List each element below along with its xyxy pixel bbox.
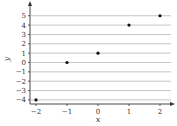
y-tick-label: −1 (16, 68, 26, 76)
data-points (34, 14, 161, 101)
y-tick-label: 1 (22, 50, 26, 58)
y-tick-label: 0 (22, 59, 26, 67)
y-axis-label: y (2, 56, 11, 62)
y-tick-label: 5 (22, 12, 26, 20)
gridlines (31, 16, 171, 100)
y-tick-label: 4 (22, 22, 27, 30)
x-axis-arrow-icon (170, 102, 175, 106)
y-tick-label: 2 (22, 40, 26, 48)
x-tick-label: −2 (31, 108, 41, 116)
data-point (127, 24, 130, 27)
y-ticks: −4−3−2−1012345 (16, 12, 30, 104)
data-point (34, 98, 37, 101)
data-point (96, 52, 99, 55)
y-tick-label: −2 (16, 78, 26, 86)
y-axis-arrow-icon (28, 1, 32, 6)
y-tick-label: −3 (16, 87, 26, 95)
data-point (158, 14, 161, 17)
x-tick-label: −1 (62, 108, 72, 116)
x-axis-label: x (96, 115, 101, 124)
scatter-chart: −4−3−2−1012345 −2−1012 x y (0, 0, 177, 126)
y-tick-label: 3 (22, 31, 26, 39)
x-tick-label: 2 (158, 108, 162, 116)
y-tick-label: −4 (16, 96, 27, 104)
data-point (65, 61, 68, 64)
x-tick-label: 1 (127, 108, 131, 116)
